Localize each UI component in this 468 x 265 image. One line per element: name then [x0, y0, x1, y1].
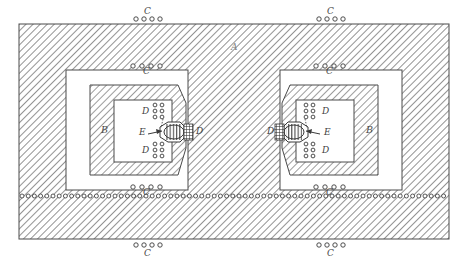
label-D-left-outer: D	[196, 127, 203, 136]
label-D-left-lower: D	[142, 146, 149, 155]
label-C-outer-bottom-right: C	[327, 249, 334, 258]
label-C-outer-bottom-left: C	[144, 249, 151, 258]
label-C-inner-top-right: C	[326, 67, 333, 76]
label-E-right: E	[324, 128, 331, 137]
label-D-right-lower: D	[322, 146, 329, 155]
label-C-inner-bottom-left: C	[143, 188, 150, 197]
label-A: A	[231, 43, 238, 52]
rivet-row-outer-top-right	[317, 17, 345, 21]
capsule-right	[275, 122, 308, 142]
label-E-left: E	[139, 128, 146, 137]
label-C-inner-bottom-right: C	[326, 188, 333, 197]
capsule-left	[160, 122, 193, 142]
rivet-row-outer-top-left	[134, 17, 162, 21]
label-C-outer-top-left: C	[144, 7, 151, 16]
rivet-row-outer-bottom-right	[317, 243, 345, 247]
label-D-right-upper: D	[322, 107, 329, 116]
patent-figure: A C C C C C C C C B B D D D D D D E E	[0, 0, 468, 265]
label-B-left: B	[101, 125, 108, 135]
label-B-right: B	[366, 125, 373, 135]
label-D-left-upper: D	[142, 107, 149, 116]
label-C-outer-top-right: C	[327, 7, 334, 16]
label-C-inner-top-left: C	[143, 67, 150, 76]
rivet-row-outer-bottom-left	[134, 243, 162, 247]
label-D-right-outer: D	[267, 127, 274, 136]
rivet-seam-row	[20, 194, 446, 198]
figure-canvas	[0, 0, 468, 265]
